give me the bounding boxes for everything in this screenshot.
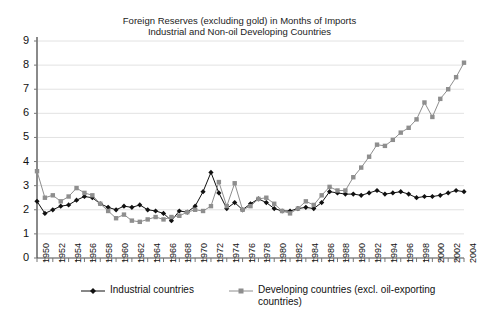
data-point — [34, 199, 39, 204]
data-point — [414, 117, 418, 121]
data-point — [288, 211, 292, 215]
data-point — [256, 197, 260, 201]
y-tick-label: 6 — [11, 106, 29, 118]
y-tick-label: 5 — [11, 130, 29, 142]
data-point — [453, 188, 458, 193]
data-point — [193, 208, 197, 212]
data-point — [382, 192, 387, 197]
data-point — [351, 175, 355, 179]
x-tick-label: 1978 — [262, 243, 272, 263]
data-point — [138, 220, 142, 224]
data-point — [201, 209, 205, 213]
x-tick-label: 2004 — [468, 243, 478, 263]
data-point — [66, 202, 71, 207]
data-point — [177, 214, 181, 218]
data-point — [351, 192, 356, 197]
data-point — [42, 211, 47, 216]
data-point — [398, 189, 403, 194]
data-point — [248, 204, 252, 208]
data-point — [383, 144, 387, 148]
data-point — [343, 188, 347, 192]
data-point — [422, 100, 426, 104]
x-tick-label: 1958 — [104, 243, 114, 263]
x-tick-label: 1990 — [357, 243, 367, 263]
y-tick-label: 9 — [11, 34, 29, 46]
data-point — [461, 189, 466, 194]
data-point — [185, 210, 189, 214]
data-point — [106, 209, 110, 213]
data-point — [216, 190, 221, 195]
data-point — [375, 142, 379, 146]
data-point — [137, 202, 142, 207]
data-point — [35, 169, 39, 173]
data-point — [304, 199, 308, 203]
data-point — [58, 204, 63, 209]
data-point — [446, 87, 450, 91]
x-tick-label: 1952 — [57, 243, 67, 263]
data-point — [399, 130, 403, 134]
data-point — [264, 196, 268, 200]
data-point — [438, 97, 442, 101]
data-point — [303, 205, 308, 210]
data-point — [98, 202, 102, 206]
data-point — [208, 170, 213, 175]
data-point — [74, 198, 79, 203]
data-point — [406, 126, 410, 130]
data-point — [161, 217, 165, 221]
legend-marker-diamond-icon — [80, 284, 106, 298]
chart-figure: Foreign Reserves (excluding gold) in Mon… — [0, 0, 479, 321]
data-point — [169, 215, 173, 219]
data-point — [359, 193, 364, 198]
data-point — [113, 207, 118, 212]
data-point — [90, 193, 94, 197]
data-point — [454, 75, 458, 79]
data-point — [359, 165, 363, 169]
series-line-developing — [37, 63, 464, 222]
x-tick-label: 1964 — [152, 243, 162, 263]
data-point — [217, 180, 221, 184]
x-tick-label: 1962 — [136, 243, 146, 263]
data-point — [272, 202, 276, 206]
x-tick-label: 1998 — [421, 243, 431, 263]
legend-label-developing: Developing countries (excl. oil-exportin… — [258, 284, 468, 308]
x-tick-label: 1992 — [373, 243, 383, 263]
x-tick-label: 1956 — [88, 243, 98, 263]
data-point — [438, 193, 443, 198]
y-tick-label: 4 — [11, 155, 29, 167]
y-tick-label: 7 — [11, 82, 29, 94]
x-tick-label: 1966 — [168, 243, 178, 263]
x-tick-label: 1976 — [247, 243, 257, 263]
data-point — [122, 212, 126, 216]
data-point — [74, 186, 78, 190]
data-point — [50, 207, 55, 212]
data-point — [59, 199, 63, 203]
x-tick-label: 2002 — [452, 243, 462, 263]
x-tick-label: 1988 — [341, 243, 351, 263]
data-point — [114, 216, 118, 220]
data-point — [146, 217, 150, 221]
x-tick-label: 1980 — [278, 243, 288, 263]
data-point — [66, 194, 70, 198]
data-point — [462, 61, 466, 65]
data-point — [390, 190, 395, 195]
x-tick-label: 1982 — [294, 243, 304, 263]
y-tick-label: 3 — [11, 179, 29, 191]
y-tick-label: 1 — [11, 227, 29, 239]
data-point — [129, 205, 134, 210]
data-point — [153, 208, 158, 213]
x-tick-label: 1972 — [215, 243, 225, 263]
series-line-industrial — [37, 172, 464, 220]
data-point — [296, 206, 300, 210]
x-tick-label: 1968 — [183, 243, 193, 263]
data-point — [200, 189, 205, 194]
data-point — [121, 204, 126, 209]
data-point — [367, 155, 371, 159]
data-point — [391, 138, 395, 142]
data-point — [43, 196, 47, 200]
data-point — [446, 190, 451, 195]
data-point — [422, 194, 427, 199]
x-tick-label: 2000 — [436, 243, 446, 263]
data-point — [327, 185, 331, 189]
data-point — [406, 192, 411, 197]
x-tick-label: 1996 — [405, 243, 415, 263]
